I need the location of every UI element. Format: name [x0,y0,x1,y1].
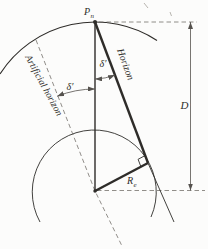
earth-circle [32,130,156,222]
horizon-label: Horizon [115,46,137,82]
horizon-line-extension [148,163,174,222]
dip-of-horizon-figure: Pn Horizon Artificial horizon δ′ δ′ Re D [0,0,208,249]
pn-point [93,20,97,24]
artificial-horizon-line [36,40,122,246]
pole-label-sub: n [91,12,95,20]
diagram-canvas: Pn Horizon Artificial horizon δ′ δ′ Re D [0,0,208,249]
pole-label-main: P [83,6,90,17]
artificial-horizon-label: Artificial horizon [23,52,66,118]
earth-radius-line [95,163,148,191]
dip-angle-label-right: δ′ [100,58,108,69]
earth-radius-label-main: R [126,175,133,186]
dip-angle-label-left: δ′ [67,81,75,92]
dip-angle-arc-right [95,75,115,79]
tick-mark-icon [144,3,148,8]
distance-label: D [180,99,189,111]
tick-mark-icon [170,12,172,16]
horizon-line [95,22,148,163]
earth-radius-label: Re [126,175,137,189]
earth-center-point [93,189,96,192]
earth-radius-label-sub: e [134,181,137,189]
pole-label: Pn [83,6,95,20]
dip-angle-arc-left [57,89,95,96]
